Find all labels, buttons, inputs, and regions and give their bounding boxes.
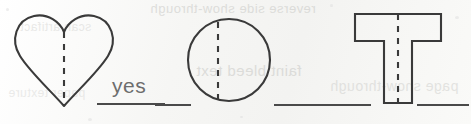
paper-speckle — [240, 116, 243, 118]
paper-speckle — [88, 118, 92, 121]
answer-line-tshape-left-segment[interactable] — [301, 104, 371, 106]
answer-text-heart[interactable]: yes — [112, 74, 146, 98]
answer-line-circle-left-segment[interactable] — [155, 104, 191, 106]
paper-speckle — [330, 4, 333, 7]
t-shape-figure — [350, 9, 446, 109]
answer-line-tshape-right-segment[interactable] — [417, 104, 469, 106]
paper-speckle — [6, 8, 9, 11]
circle-shape-figure — [186, 14, 276, 106]
circle-outline — [188, 19, 270, 101]
paper-speckle — [455, 16, 459, 19]
heart-shape-figure — [12, 10, 116, 110]
worksheet-page: reverse side show-through faint bleed te… — [0, 0, 471, 124]
